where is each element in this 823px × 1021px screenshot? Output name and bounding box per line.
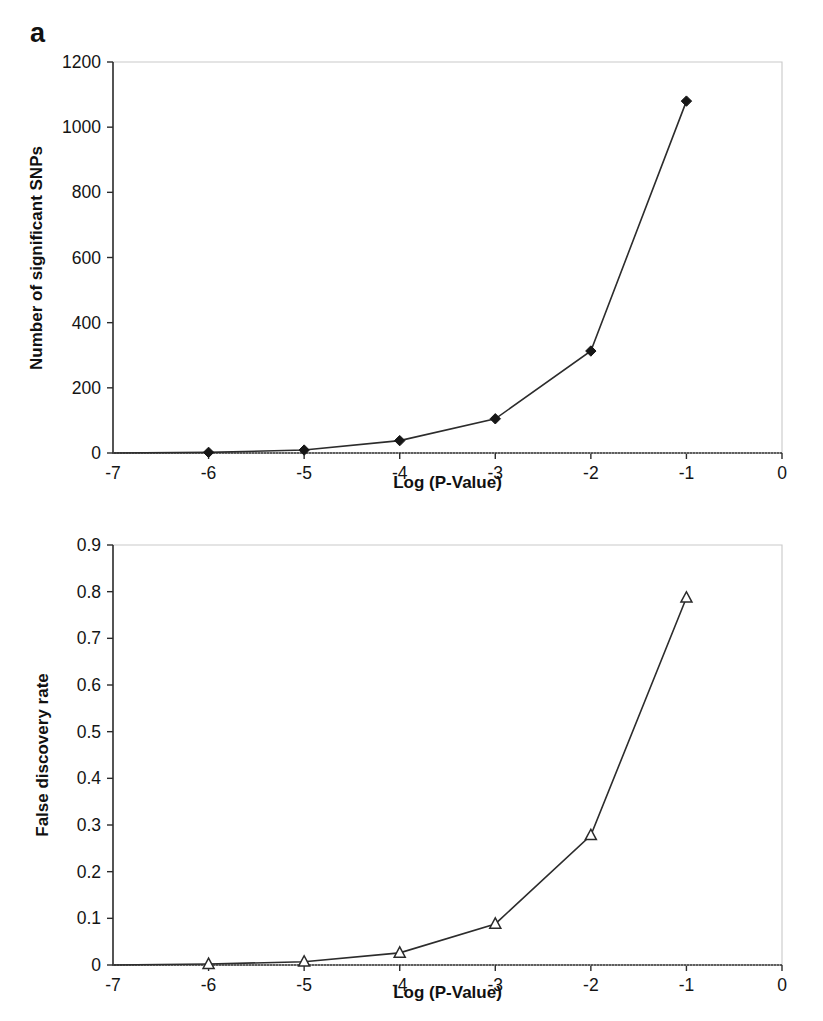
y-tick-label: 400 bbox=[72, 313, 101, 333]
y-axis-title: Number of significant SNPs bbox=[27, 146, 46, 370]
panel-b-plot: 00.10.20.30.40.50.60.70.80.9-7-6-5-4-3-2… bbox=[0, 510, 823, 1021]
y-tick-label: 0.1 bbox=[77, 908, 101, 928]
data-point-marker-diamond bbox=[681, 96, 691, 106]
y-tick-label: 0.7 bbox=[77, 628, 101, 648]
series-line bbox=[113, 598, 686, 965]
series-line bbox=[113, 101, 686, 453]
x-axis-title: Log (P-Value) bbox=[393, 473, 502, 492]
panel-a-plot: 020040060080010001200-7-6-5-4-3-2-10Log … bbox=[0, 0, 823, 510]
y-tick-label: 0.5 bbox=[77, 722, 101, 742]
y-tick-label: 0 bbox=[91, 955, 101, 975]
y-tick-label: 0.2 bbox=[77, 862, 101, 882]
x-tick-label: -7 bbox=[105, 975, 121, 995]
data-point-marker-triangle bbox=[585, 829, 596, 839]
x-tick-label: -5 bbox=[296, 975, 312, 995]
x-tick-label: -1 bbox=[679, 463, 695, 483]
y-tick-label: 0.6 bbox=[77, 675, 101, 695]
panel-b: b 00.10.20.30.40.50.60.70.80.9-7-6-5-4-3… bbox=[0, 510, 823, 1021]
x-tick-label: -2 bbox=[583, 463, 599, 483]
figure-root: a 020040060080010001200-7-6-5-4-3-2-10Lo… bbox=[0, 0, 823, 1021]
y-axis-title: False discovery rate bbox=[33, 673, 52, 836]
y-tick-label: 0.4 bbox=[77, 768, 102, 788]
axis-lines bbox=[113, 62, 782, 453]
panel-a: a 020040060080010001200-7-6-5-4-3-2-10Lo… bbox=[0, 0, 823, 510]
y-tick-label: 0.9 bbox=[77, 535, 101, 555]
x-tick-label: -2 bbox=[583, 975, 599, 995]
data-point-marker-triangle bbox=[681, 592, 692, 602]
x-tick-label: -1 bbox=[679, 975, 695, 995]
x-tick-label: -6 bbox=[201, 463, 217, 483]
y-tick-label: 200 bbox=[72, 378, 101, 398]
y-tick-label: 1200 bbox=[62, 52, 101, 72]
y-tick-label: 0.3 bbox=[77, 815, 101, 835]
data-point-marker-diamond bbox=[395, 435, 405, 445]
x-tick-label: 0 bbox=[777, 975, 787, 995]
y-tick-label: 0.8 bbox=[77, 582, 101, 602]
data-point-marker-diamond bbox=[203, 447, 213, 457]
data-point-marker-diamond bbox=[490, 414, 500, 424]
x-tick-label: -6 bbox=[201, 975, 217, 995]
x-tick-label: -7 bbox=[105, 463, 121, 483]
y-tick-label: 1000 bbox=[62, 117, 101, 137]
x-tick-label: -5 bbox=[296, 463, 312, 483]
x-axis-title: Log (P-Value) bbox=[393, 983, 502, 1002]
x-tick-label: 0 bbox=[777, 463, 787, 483]
y-tick-label: 800 bbox=[72, 182, 101, 202]
plot-frame bbox=[113, 62, 782, 453]
data-point-marker-diamond bbox=[586, 346, 596, 356]
y-tick-label: 600 bbox=[72, 248, 101, 268]
y-tick-label: 0 bbox=[91, 443, 101, 463]
